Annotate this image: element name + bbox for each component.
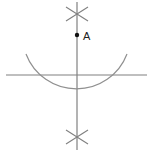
construction-diagram: A [0,0,153,157]
point-a-label: A [83,30,91,42]
point-a [75,33,79,37]
